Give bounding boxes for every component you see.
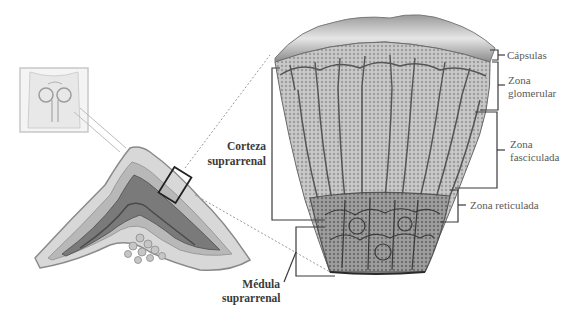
zona-fasciculada-line1: Zona bbox=[510, 138, 559, 151]
medulla-label: Médula suprarrenal bbox=[232, 277, 281, 305]
zona-fasciculada-line2: fasciculada bbox=[510, 151, 559, 164]
zona-glomerular-line2: glomerular bbox=[508, 87, 556, 100]
medulla-label-line1: Médula bbox=[232, 277, 280, 291]
diagram-artwork bbox=[0, 0, 582, 322]
cortex-detail bbox=[275, 15, 495, 274]
zona-reticulada-label: Zona reticulada bbox=[470, 199, 539, 212]
cortex-label-line1: Corteza bbox=[222, 139, 266, 153]
cortex-label-text2: suprarrenal bbox=[196, 154, 266, 168]
medulla-label-line2: suprarrenal bbox=[222, 291, 281, 305]
zona-glomerular-line1: Zona bbox=[508, 74, 556, 87]
capsule-label: Cápsulas bbox=[507, 49, 547, 62]
cortex-label: Corteza bbox=[222, 139, 266, 153]
body-thumbnail bbox=[20, 68, 88, 132]
cortex-label-line2: suprarrenal bbox=[196, 154, 266, 168]
adrenal-diagram: Corteza suprarrenal Médula suprarrenal C… bbox=[0, 0, 582, 322]
zona-fasciculada-label: Zona fasciculada bbox=[510, 138, 559, 164]
zona-glomerular-label: Zona glomerular bbox=[508, 74, 556, 100]
